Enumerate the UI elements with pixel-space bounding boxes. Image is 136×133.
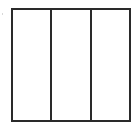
part-2	[50, 10, 89, 120]
part-3	[90, 10, 129, 120]
divided-square	[11, 8, 131, 122]
part-1	[13, 10, 50, 120]
speck-mark	[2, 13, 3, 15]
